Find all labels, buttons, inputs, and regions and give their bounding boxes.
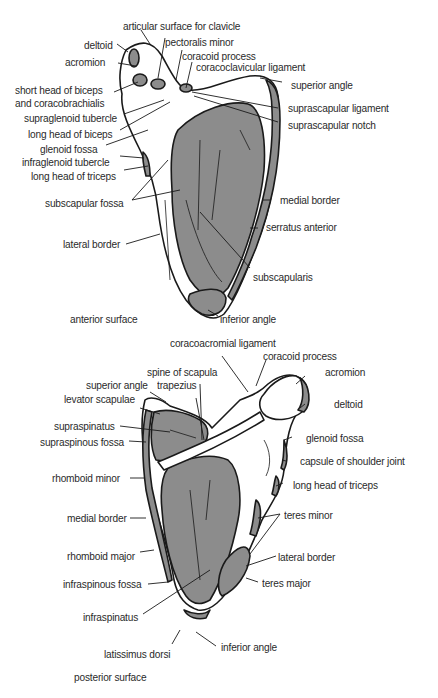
- anterior-pec-minor-patch: [151, 79, 165, 89]
- label-superior-angle-anterior: superior angle: [291, 79, 353, 91]
- anterior-inferior-angle-muscle: [189, 289, 227, 315]
- label-glenoid-fossa-posterior: glenoid fossa: [306, 432, 363, 444]
- label-latissimus-dorsi: latissimus dorsi: [104, 648, 170, 660]
- label-deltoid-anterior: deltoid: [84, 39, 113, 51]
- label-acromion-posterior: acromion: [325, 366, 365, 378]
- caption-anterior-surface: anterior surface: [70, 313, 137, 325]
- label-articular-surface: articular surface for clavicle: [123, 20, 240, 32]
- label-coracoacromial-ligament: coracoacromial ligament: [170, 337, 276, 349]
- label-infraspinous-fossa: infraspinous fossa: [63, 578, 141, 590]
- label-deltoid-posterior: deltoid: [334, 398, 363, 410]
- label-long-head-triceps-anterior: long head of triceps: [31, 170, 116, 182]
- label-supraglenoid-tubercle: supraglenoid tubercle: [24, 112, 117, 124]
- label-suprascapular-notch: suprascapular notch: [288, 119, 376, 131]
- label-supraspinous-fossa: supraspinous fossa: [40, 436, 124, 448]
- label-coracoid-process-posterior: coracoid process: [263, 350, 337, 362]
- label-superior-angle-posterior: superior angle: [86, 379, 148, 391]
- label-rhomboid-major: rhomboid major: [67, 550, 135, 562]
- label-levator-scapulae: levator scapulae: [64, 393, 135, 405]
- label-inferior-angle-anterior: inferior angle: [220, 313, 276, 325]
- label-teres-minor: teres minor: [284, 509, 333, 521]
- label-infraspinatus: infraspinatus: [83, 611, 138, 623]
- label-long-head-biceps: long head of biceps: [28, 128, 112, 140]
- label-serratus-anterior: serratus anterior: [266, 221, 337, 233]
- scapula-diagram: articular surface for clavicle deltoid p…: [0, 0, 438, 698]
- label-supraspinatus: supraspinatus: [54, 420, 115, 432]
- label-inferior-angle-posterior: inferior angle: [221, 641, 277, 653]
- posterior-latissimus: [184, 610, 210, 619]
- label-short-head-biceps: short head of biceps: [15, 84, 103, 96]
- label-subscapularis: subscapularis: [253, 271, 313, 283]
- label-acromion-anterior: acromion: [65, 56, 105, 68]
- label-glenoid-fossa-anterior: glenoid fossa: [40, 143, 97, 155]
- label-suprascapular-ligament: suprascapular ligament: [288, 102, 389, 114]
- label-subscapular-fossa: subscapular fossa: [45, 197, 124, 209]
- label-spine-of-scapula: spine of scapula: [147, 366, 217, 378]
- label-coracoclavicular-ligament: coracoclavicular ligament: [196, 61, 305, 73]
- label-trapezius: trapezius: [157, 379, 196, 391]
- label-capsule-shoulder-joint: capsule of shoulder joint: [300, 455, 405, 467]
- label-medial-border-posterior: medial border: [67, 512, 127, 524]
- label-lateral-border-anterior: lateral border: [63, 238, 120, 250]
- anterior-short-head-patch: [133, 74, 147, 86]
- label-teres-major: teres major: [262, 577, 311, 589]
- label-coracobrachialis: and coracobrachialis: [15, 97, 104, 109]
- anterior-subscapular-fossa: [171, 103, 264, 297]
- label-long-head-triceps-posterior: long head of triceps: [293, 479, 378, 491]
- label-lateral-border-posterior: lateral border: [278, 551, 335, 563]
- label-pectoralis-minor: pectoralis minor: [165, 36, 234, 48]
- anterior-deltoid-patch: [129, 49, 139, 67]
- label-infraglenoid-tubercle: infraglenoid tubercle: [22, 156, 109, 168]
- label-medial-border-anterior: medial border: [280, 194, 340, 206]
- caption-posterior-surface: posterior surface: [74, 671, 146, 683]
- label-rhomboid-minor: rhomboid minor: [52, 472, 120, 484]
